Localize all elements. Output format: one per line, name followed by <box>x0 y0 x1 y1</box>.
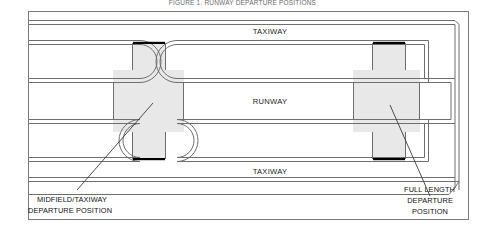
hold-bar-full-length-top <box>373 42 405 44</box>
label-full-length-line2: DEPARTURE <box>407 196 453 205</box>
label-midfield-line2: DEPARTURE POSITION <box>28 206 112 215</box>
label-runway: RUNWAY <box>253 97 287 106</box>
label-taxiway-bottom: TAXIWAY <box>253 167 288 176</box>
label-midfield-line1: MIDFIELD/TAXIWAY <box>37 195 107 204</box>
label-taxiway-top: TAXIWAY <box>253 27 288 36</box>
hold-bar-midfield-top <box>133 42 165 44</box>
figure-container: FIGURE 1. RUNWAY DEPARTURE POSITIONS <box>0 0 485 231</box>
label-full-length-line1: FULL LENGTH <box>404 185 455 194</box>
hold-bar-midfield-bottom <box>133 158 165 160</box>
airport-layout-diagram: TAXIWAY RUNWAY TAXIWAY MIDFIELD/TAXIWAY … <box>0 0 485 231</box>
label-full-length-line3: POSITION <box>412 207 448 216</box>
hold-bar-full-length-bottom <box>373 158 405 160</box>
